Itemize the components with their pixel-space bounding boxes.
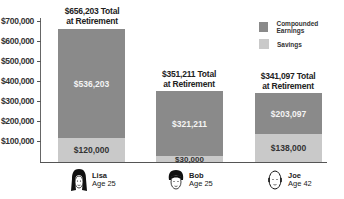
legend-label: Savings (277, 41, 302, 48)
earnings-segment: $203,097 (255, 93, 322, 134)
y-tick (37, 41, 41, 42)
person-age: Age 42 (288, 180, 312, 188)
y-tick (37, 61, 41, 62)
woman-face-icon (70, 168, 88, 192)
y-tick (37, 21, 41, 22)
bar-bob: $321,211 $30,000 (156, 91, 223, 162)
y-tick-label: $200,000 (0, 116, 34, 126)
savings-segment: $138,000 (255, 134, 322, 162)
y-tick (37, 81, 41, 82)
legend: Compounded Earnings Savings (259, 20, 344, 54)
total-caption: at Retirement (139, 79, 239, 89)
y-tick (37, 141, 41, 142)
person-bob: Bob Age 25 (167, 168, 213, 192)
y-tick-label: $500,000 (0, 56, 34, 66)
y-tick-label: $400,000 (0, 76, 34, 86)
total-caption: at Retirement (42, 16, 142, 26)
earnings-segment: $536,203 (58, 29, 125, 138)
bald-man-face-icon (266, 168, 284, 192)
total-label-lisa: $656,203 Total at Retirement (42, 6, 142, 26)
total-caption: at Retirement (238, 81, 338, 91)
legend-swatch (259, 22, 268, 32)
person-joe: Joe Age 42 (266, 168, 312, 192)
total-label-bob: $351,211 Total at Retirement (139, 69, 239, 89)
legend-item-savings: Savings (259, 39, 344, 49)
y-tick (37, 101, 41, 102)
legend-swatch (259, 39, 269, 49)
legend-item-earnings: Compounded Earnings (259, 20, 344, 34)
person-age: Age 25 (189, 180, 213, 188)
person-age: Age 25 (92, 180, 116, 188)
earnings-segment: $321,211 (156, 91, 223, 156)
y-tick-label: $300,000 (0, 96, 34, 106)
y-tick-label: $100,000 (0, 136, 34, 146)
total-value: $656,203 Total (42, 6, 142, 16)
total-value: $341,097 Total (238, 71, 338, 81)
total-value: $351,211 Total (139, 69, 239, 79)
y-tick-label: $600,000 (0, 36, 34, 46)
bar-lisa: $536,203 $120,000 (58, 29, 125, 162)
y-tick (37, 121, 41, 122)
y-tick-label: $700,000 (0, 16, 34, 26)
total-label-joe: $341,097 Total at Retirement (238, 71, 338, 91)
savings-segment: $30,000 (156, 156, 223, 162)
bar-joe: $203,097 $138,000 (255, 93, 322, 162)
man-face-icon (167, 168, 185, 192)
person-lisa: Lisa Age 25 (70, 168, 116, 192)
savings-segment: $120,000 (58, 138, 125, 162)
legend-label: Compounded Earnings (276, 20, 344, 34)
